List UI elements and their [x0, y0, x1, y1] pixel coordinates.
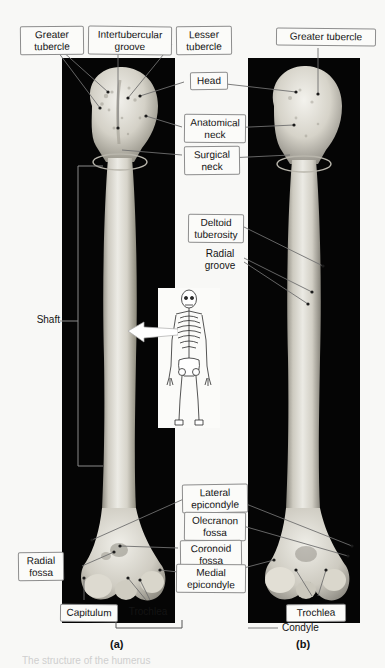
skeleton-orientation-inset	[158, 288, 220, 428]
label-trochlea-posterior: Trochlea	[286, 604, 346, 622]
label-lateral-epicondyle: Lateral epicondyle	[182, 484, 248, 514]
label-intertubercular-groove: Intertubercular groove	[88, 26, 172, 56]
figure-caption: The structure of the humerus	[22, 655, 362, 668]
label-greater-tubercle-posterior: Greater tubercle	[276, 27, 376, 46]
label-lesser-tubercle: Lesser tubercle	[176, 26, 232, 56]
humerus-figure: Greater tubercle Intertubercular groove …	[0, 0, 385, 668]
label-trochlea-anterior: Trochlea	[122, 606, 174, 618]
label-greater-tubercle-anterior: Greater tubercle	[20, 26, 84, 56]
orientation-arrow	[128, 318, 178, 344]
label-anatomical-neck: Anatomical neck	[184, 114, 246, 144]
view-letter-b: (b)	[296, 638, 310, 650]
label-surgical-neck: Surgical neck	[184, 146, 240, 176]
view-letter-a: (a)	[110, 638, 123, 650]
label-shaft: Shaft	[24, 314, 60, 326]
label-medial-epicondyle: Medial epicondyle	[176, 564, 246, 594]
label-deltoid-tuberosity: Deltoid tuberosity	[188, 214, 244, 244]
label-olecranon-fossa: Olecranon fossa	[184, 512, 246, 542]
humerus-posterior	[248, 58, 360, 623]
label-head: Head	[190, 72, 228, 90]
label-radial-fossa: Radial fossa	[18, 552, 64, 582]
label-radial-groove: Radial groove	[196, 248, 244, 271]
label-capitulum: Capitulum	[60, 604, 118, 622]
label-condyle: Condyle	[282, 622, 332, 634]
